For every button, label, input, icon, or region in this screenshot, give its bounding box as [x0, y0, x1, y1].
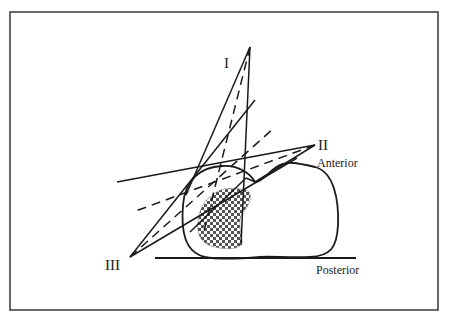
anterior-label: Anterior — [317, 157, 358, 169]
beam-label-ii: II — [318, 138, 328, 153]
beam-label-iii: III — [105, 258, 120, 273]
beam-diagram — [0, 0, 449, 320]
posterior-label: Posterior — [316, 264, 359, 276]
diagram-frame: I II III Anterior Posterior — [0, 0, 449, 320]
beam-label-i: I — [224, 56, 229, 71]
